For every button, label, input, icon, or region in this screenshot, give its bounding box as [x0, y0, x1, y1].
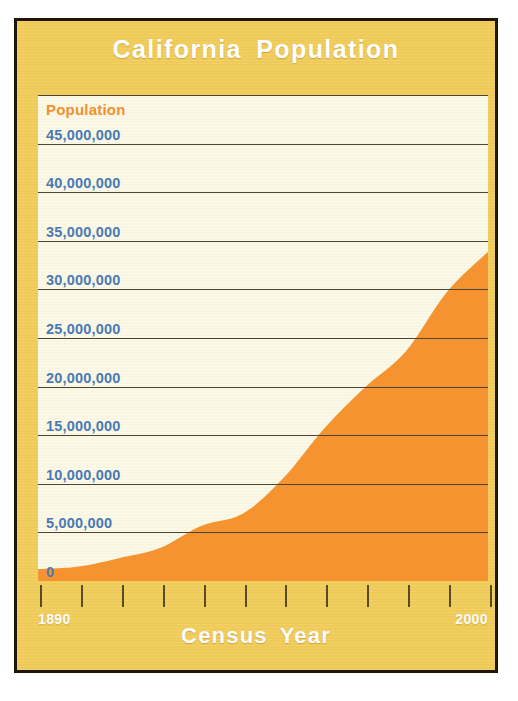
gridline [38, 387, 488, 388]
x-axis-title: Census Year [17, 623, 495, 649]
chart-frame: California Population Population 50,000,… [14, 18, 498, 673]
x-tick-mark [408, 585, 410, 607]
x-tick-mark [490, 585, 492, 607]
chart-figure: California Population Population 50,000,… [0, 0, 518, 701]
gridline [38, 435, 488, 436]
x-tick-mark [204, 585, 206, 607]
y-tick-label: 0 [46, 564, 54, 581]
x-tick-mark [40, 585, 42, 607]
y-tick-label: 15,000,000 [46, 418, 121, 435]
x-tick-mark [326, 585, 328, 607]
y-tick-label: 35,000,000 [46, 224, 121, 241]
y-tick-label: 30,000,000 [46, 272, 121, 289]
y-tick-label: 20,000,000 [46, 370, 121, 387]
x-tick-mark [163, 585, 165, 607]
y-tick-label: 25,000,000 [46, 321, 121, 338]
y-tick-label: 40,000,000 [46, 175, 121, 192]
gridline [38, 95, 488, 96]
y-axis-title: Population [46, 101, 126, 118]
x-tick-mark [81, 585, 83, 607]
gridline [38, 338, 488, 339]
chart-title: California Population [17, 35, 495, 64]
y-tick-label: 5,000,000 [46, 515, 112, 532]
gridline [38, 289, 488, 290]
x-tick-mark [367, 585, 369, 607]
gridline [38, 532, 488, 533]
gridline [38, 484, 488, 485]
x-tick-mark [285, 585, 287, 607]
y-tick-label: 45,000,000 [46, 127, 121, 144]
x-tick-mark [245, 585, 247, 607]
x-tick-mark [122, 585, 124, 607]
gridline [38, 192, 488, 193]
plot-area: Population 50,000,00045,000,00040,000,00… [38, 95, 488, 581]
x-axis: 1890 2000 [38, 581, 488, 623]
gridline [38, 144, 488, 145]
gridline [38, 241, 488, 242]
x-tick-mark [449, 585, 451, 607]
y-tick-label: 10,000,000 [46, 467, 121, 484]
